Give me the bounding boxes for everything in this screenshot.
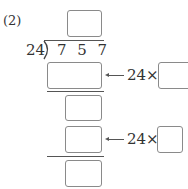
subtraction-line-1: [47, 91, 104, 92]
division-bracket: [42, 40, 52, 60]
final-remainder-box[interactable]: [65, 160, 102, 187]
dividend: 7 5 7: [57, 42, 110, 58]
subtraction-line-2: [47, 156, 104, 157]
first-remainder-box[interactable]: [65, 95, 102, 121]
second-product-box[interactable]: [65, 126, 102, 153]
step2-multiplier-box[interactable]: [157, 126, 183, 153]
step1-multiplier-text: 24×: [127, 67, 159, 83]
step1-multiplier-box[interactable]: [158, 62, 188, 89]
arrow-left-icon: [108, 139, 124, 140]
arrow-left-icon: [108, 75, 124, 76]
step2-multiplier-text: 24×: [127, 131, 159, 147]
quotient-answer-box[interactable]: [67, 10, 102, 37]
problem-label: (2): [3, 13, 21, 29]
first-product-box[interactable]: [47, 62, 102, 89]
